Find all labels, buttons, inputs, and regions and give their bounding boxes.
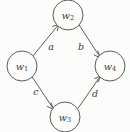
node-group: w2 w1 w4 w3 (7, 0, 125, 132)
node-w2[interactable]: w2 (53, 0, 83, 30)
edge-label-b: b (78, 41, 84, 52)
node-w3[interactable]: w3 (50, 102, 80, 132)
edge-label-a: a (48, 41, 54, 52)
edge-label-d: d (92, 88, 98, 99)
node-w4[interactable]: w4 (95, 51, 125, 81)
edge-a (33, 24, 59, 56)
node-w1[interactable]: w1 (7, 51, 37, 81)
edge-group (32, 24, 101, 109)
graph-canvas: w2 w1 w4 w3 (0, 0, 130, 132)
edge-a-line (33, 26, 58, 56)
edge-label-c: c (33, 86, 39, 97)
edge-label-group: a b c d (33, 41, 98, 99)
graph-diagram: w2 w1 w4 w3 (0, 0, 130, 132)
